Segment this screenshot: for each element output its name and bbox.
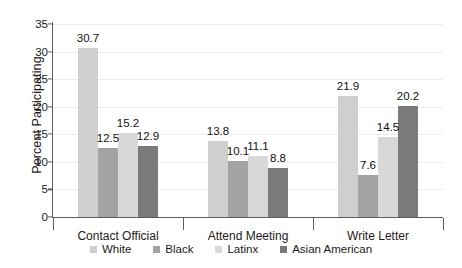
bar <box>358 175 378 217</box>
x-axis-separator-tick <box>443 218 444 230</box>
bar-chart: Percent Participating 05101520253035 30.… <box>0 0 462 268</box>
y-tick-label: 25 <box>0 73 48 85</box>
legend-item: Latinx <box>215 243 258 255</box>
bar <box>338 96 358 217</box>
x-axis-category-label: Attend Meeting <box>208 229 289 243</box>
bar <box>78 48 98 217</box>
gridline <box>53 52 443 53</box>
bar <box>98 148 118 217</box>
legend-label: Asian American <box>292 243 372 255</box>
legend-label: Black <box>165 243 193 255</box>
y-tick-label: 0 <box>0 211 48 223</box>
x-axis-line <box>53 217 443 218</box>
y-tick-label: 10 <box>0 156 48 168</box>
bar-value-label: 13.8 <box>207 125 229 137</box>
bar-value-label: 8.8 <box>270 152 286 164</box>
legend-swatch-icon <box>280 246 287 253</box>
legend: WhiteBlackLatinxAsian American <box>0 243 462 255</box>
y-tick-mark <box>48 216 52 217</box>
bar <box>248 156 268 217</box>
bar <box>138 146 158 217</box>
y-tick-label: 15 <box>0 128 48 140</box>
bar <box>208 141 228 217</box>
x-axis-category-label: Write Letter <box>347 229 409 243</box>
bar <box>118 133 138 217</box>
y-tick-mark <box>48 79 52 80</box>
bar <box>228 161 248 217</box>
bar <box>378 137 398 217</box>
bar-value-label: 7.6 <box>360 159 376 171</box>
legend-item: Asian American <box>280 243 372 255</box>
gridline <box>53 24 443 25</box>
legend-label: Latinx <box>227 243 258 255</box>
y-tick-label: 35 <box>0 18 48 30</box>
x-axis-separator-tick <box>313 218 314 230</box>
gridline <box>53 107 443 108</box>
legend-swatch-icon <box>90 246 97 253</box>
bar-value-label: 30.7 <box>77 32 99 44</box>
y-tick-mark <box>48 23 52 24</box>
bar-value-label: 15.2 <box>117 117 139 129</box>
x-axis-separator-tick <box>183 218 184 230</box>
bar-value-label: 14.5 <box>377 121 399 133</box>
bar-value-label: 12.5 <box>97 132 119 144</box>
y-tick-mark <box>48 106 52 107</box>
y-tick-mark <box>48 189 52 190</box>
y-tick-mark <box>48 134 52 135</box>
bar-value-label: 21.9 <box>337 80 359 92</box>
y-tick-label: 30 <box>0 46 48 58</box>
legend-swatch-icon <box>215 246 222 253</box>
y-axis-line <box>52 22 53 218</box>
x-axis-category-label: Contact Official <box>77 229 158 243</box>
bar-value-label: 20.2 <box>397 90 419 102</box>
bar-value-label: 12.9 <box>137 130 159 142</box>
legend-item: White <box>90 243 131 255</box>
bar-value-label: 10.1 <box>227 145 249 157</box>
legend-label: White <box>102 243 131 255</box>
bar-value-label: 11.1 <box>247 140 269 152</box>
legend-item: Black <box>153 243 193 255</box>
gridline <box>53 79 443 80</box>
bar <box>398 106 418 217</box>
x-axis-separator-tick <box>53 218 54 230</box>
y-tick-label: 20 <box>0 101 48 113</box>
legend-swatch-icon <box>153 246 160 253</box>
bar <box>268 168 288 217</box>
y-tick-label: 5 <box>0 183 48 195</box>
y-tick-mark <box>48 161 52 162</box>
y-tick-mark <box>48 51 52 52</box>
